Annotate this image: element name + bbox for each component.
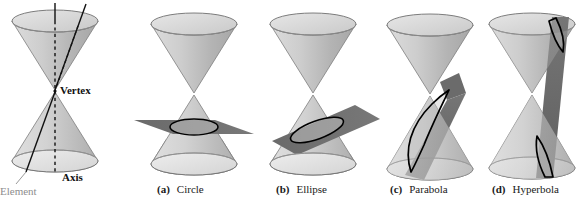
conic-sections-illustration xyxy=(0,0,584,204)
lower-nappe-front-overlay xyxy=(489,95,575,179)
element-label-leader xyxy=(16,172,26,184)
panel-hyperbola xyxy=(489,13,575,179)
caption-text-circle: Circle xyxy=(177,183,204,195)
panel-ellipse xyxy=(270,13,380,175)
annotation-axis: Axis xyxy=(62,172,83,183)
conic-curve-circle xyxy=(170,119,218,135)
caption-ellipse: (b)Ellipse xyxy=(276,184,327,195)
caption-circle: (a)Circle xyxy=(157,184,204,195)
annotation-vertex: Vertex xyxy=(60,85,91,96)
caption-label-c: (c) xyxy=(390,183,402,195)
conic-sections-figure: Vertex Axis Element (a)Circle (b)Ellipse… xyxy=(0,0,584,204)
panel-parabola xyxy=(387,14,473,180)
vertex-point xyxy=(53,89,56,92)
caption-parabola: (c)Parabola xyxy=(390,184,448,195)
caption-text-ellipse: Ellipse xyxy=(296,183,327,195)
caption-hyperbola: (d)Hyperbola xyxy=(492,184,559,195)
caption-label-a: (a) xyxy=(157,183,170,195)
caption-text-hyperbola: Hyperbola xyxy=(512,183,558,195)
caption-label-b: (b) xyxy=(276,183,289,195)
annotation-element: Element xyxy=(0,186,37,197)
caption-label-d: (d) xyxy=(492,183,505,195)
panel-circle xyxy=(134,13,254,175)
caption-text-parabola: Parabola xyxy=(409,183,447,195)
